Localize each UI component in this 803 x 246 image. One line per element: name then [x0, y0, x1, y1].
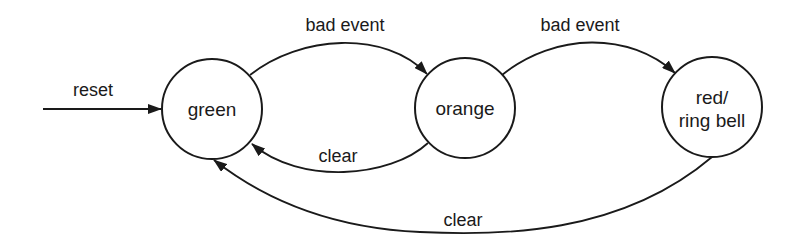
bad-event-label-2: bad event [540, 15, 619, 35]
state-diagram: reset bad event bad event clear clear gr… [0, 0, 803, 246]
bad-event-arrow-1 [250, 43, 427, 75]
transition-orange-to-green: clear [252, 143, 428, 172]
state-orange-label: orange [435, 98, 494, 119]
state-green: green [162, 59, 262, 159]
bad-event-arrow-2 [502, 42, 675, 75]
clear-label-long: clear [443, 210, 482, 230]
transition-red-to-green: clear [214, 157, 712, 233]
state-orange: orange [415, 58, 515, 158]
transition-orange-to-red: bad event [502, 15, 675, 75]
transition-reset: reset [43, 80, 161, 109]
state-red-label-line1: red/ [696, 87, 729, 108]
bad-event-label-1: bad event [305, 15, 384, 35]
transition-green-to-orange: bad event [250, 15, 427, 75]
state-red-label-line2: ring bell [679, 110, 746, 131]
clear-label-short: clear [318, 146, 357, 166]
state-red: red/ ring bell [662, 57, 762, 157]
state-green-label: green [188, 99, 237, 120]
reset-label: reset [73, 80, 113, 100]
